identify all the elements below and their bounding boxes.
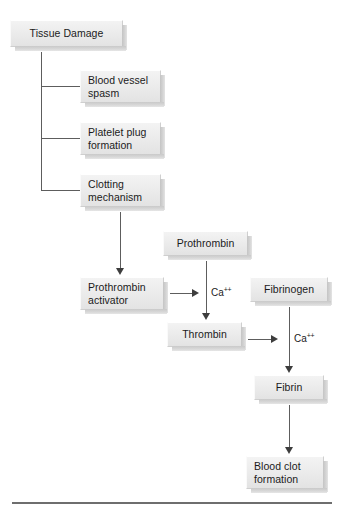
node-platelet-plug-formation-label: Platelet plug formation — [81, 126, 160, 151]
node-platelet-plug-formation[interactable]: Platelet plug formation — [80, 122, 161, 155]
connector-branch-platelet — [41, 138, 80, 139]
node-blood-vessel-spasm-line1: Blood vessel — [88, 74, 148, 86]
node-fibrinogen[interactable]: Fibrinogen — [250, 277, 328, 302]
node-blood-clot-line2: formation — [254, 473, 298, 485]
arrowhead-to-thrombin — [202, 313, 210, 320]
connector-thrombin-to-calcium-2 — [248, 339, 271, 340]
label-calcium-1-symbol: Ca — [211, 287, 224, 298]
arrowhead-calcium-1 — [192, 289, 199, 297]
connector-branch-clotting — [41, 190, 80, 191]
connector-activator-to-calcium-1 — [170, 293, 192, 294]
arrowhead-calcium-2 — [271, 335, 278, 343]
node-platelet-plug-line2: formation — [88, 139, 132, 151]
label-calcium-2-charge: ++ — [307, 332, 315, 339]
arrowhead-to-blood-clot — [285, 447, 293, 454]
flowchart-canvas: Tissue Damage Blood vessel spasm Platele… — [0, 0, 342, 517]
node-blood-vessel-spasm-line2: spasm — [88, 87, 119, 99]
node-prothrombin-label: Prothrombin — [164, 237, 247, 250]
node-platelet-plug-line1: Platelet plug — [88, 126, 146, 138]
node-clotting-mechanism-line2: mechanism — [88, 191, 142, 203]
node-prothrombin-activator-line2: activator — [88, 294, 128, 306]
connector-fibrinogen-to-fibrin — [289, 307, 290, 367]
node-blood-clot-formation[interactable]: Blood clot formation — [246, 456, 324, 489]
node-fibrinogen-label: Fibrinogen — [251, 283, 327, 296]
connector-trunk-vertical — [41, 52, 42, 190]
label-calcium-2: Ca++ — [294, 333, 314, 344]
node-prothrombin-activator[interactable]: Prothrombin activator — [80, 277, 164, 310]
node-tissue-damage[interactable]: Tissue Damage — [10, 20, 123, 47]
connector-branch-spasm — [41, 86, 80, 87]
node-clotting-mechanism[interactable]: Clotting mechanism — [80, 174, 161, 207]
arrowhead-to-prothrombin-activator — [116, 268, 124, 275]
connector-prothrombin-to-thrombin — [206, 261, 207, 314]
node-blood-clot-formation-label: Blood clot formation — [247, 460, 323, 485]
bottom-divider-rule — [12, 502, 332, 504]
node-clotting-mechanism-label: Clotting mechanism — [81, 178, 160, 203]
node-prothrombin[interactable]: Prothrombin — [163, 231, 248, 256]
node-blood-vessel-spasm[interactable]: Blood vessel spasm — [80, 70, 161, 103]
label-calcium-1: Ca++ — [211, 287, 231, 298]
node-blood-vessel-spasm-label: Blood vessel spasm — [81, 74, 160, 99]
connector-clotting-to-prothrombin-activator — [120, 212, 121, 269]
node-blood-clot-line1: Blood clot — [254, 460, 301, 472]
label-calcium-1-charge: ++ — [224, 286, 232, 293]
node-prothrombin-activator-line1: Prothrombin — [88, 281, 146, 293]
node-fibrin[interactable]: Fibrin — [254, 375, 324, 400]
arrowhead-to-fibrin — [285, 366, 293, 373]
connector-fibrin-to-blood-clot — [289, 405, 290, 448]
node-thrombin-label: Thrombin — [168, 328, 241, 341]
node-prothrombin-activator-label: Prothrombin activator — [81, 281, 163, 306]
node-clotting-mechanism-line1: Clotting — [88, 178, 124, 190]
label-calcium-2-symbol: Ca — [294, 333, 307, 344]
node-fibrin-label: Fibrin — [255, 381, 323, 394]
node-thrombin[interactable]: Thrombin — [167, 322, 242, 347]
node-tissue-damage-label: Tissue Damage — [11, 27, 122, 40]
